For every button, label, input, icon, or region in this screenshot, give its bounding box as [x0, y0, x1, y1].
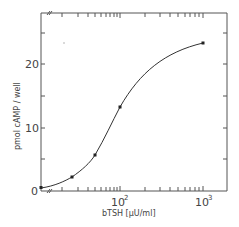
x-axis-label: bTSH [µU/ml] — [102, 209, 156, 218]
x-tick-label-1000: 10 3 — [195, 194, 212, 209]
chart: 0 10 20 pmol cAMP / well 10 2 10 3 bTSH … — [0, 0, 239, 227]
data-points — [40, 42, 205, 190]
y-ticks — [41, 33, 227, 159]
plot-frame — [41, 13, 227, 191]
svg-text:2: 2 — [124, 194, 128, 202]
x-tick-label-100: 10 2 — [111, 194, 128, 209]
y-tick-label-0: 0 — [31, 185, 38, 198]
y-tick-label-10: 10 — [25, 122, 39, 135]
x-ticks — [62, 13, 203, 191]
svg-text:3: 3 — [208, 194, 212, 202]
y-tick-label-20: 20 — [25, 58, 39, 71]
fit-curve — [41, 43, 203, 188]
y-axis-label: pmol cAMP / well — [13, 82, 22, 150]
artifact-dot — [63, 42, 65, 44]
svg-text:10: 10 — [195, 196, 209, 209]
axis-break-icon — [47, 11, 52, 193]
svg-text:10: 10 — [111, 196, 125, 209]
